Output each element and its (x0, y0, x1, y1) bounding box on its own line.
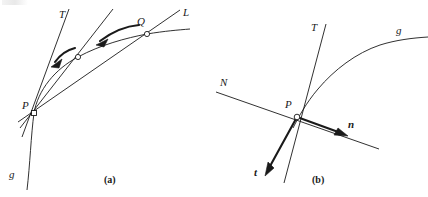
panel-a (18, 9, 190, 190)
vector-n-arrowhead-panel-b (334, 128, 348, 136)
label-L-panel-a: L (183, 7, 189, 18)
label-t-vector-panel-b: t (254, 167, 257, 178)
caption-panel-a: (a) (104, 175, 116, 185)
label-N-panel-b: N (220, 77, 227, 88)
point-P-marker-panel-b (294, 114, 300, 120)
label-P-panel-b: P (285, 99, 292, 110)
curve-g-panel-b (293, 37, 428, 128)
point-M-marker-panel-a (75, 54, 80, 59)
vector-n-shaft-panel-b (297, 117, 341, 133)
arrow-secant-approach-1-panel-a (100, 25, 139, 41)
caption-panel-b: (b) (312, 175, 324, 185)
normal-line-N-panel-b (216, 92, 379, 149)
label-T-panel-b: T (311, 22, 317, 33)
label-g-panel-b: g (396, 25, 402, 36)
label-n-vector-panel-b: n (348, 119, 354, 130)
vector-t-arrowhead-panel-b (265, 162, 274, 176)
vector-t-shaft-panel-b (269, 117, 297, 168)
figure-canvas (0, 0, 428, 197)
label-T-panel-a: T (59, 9, 65, 20)
label-P-panel-a: P (22, 100, 29, 111)
point-Q-marker-panel-a (144, 31, 149, 36)
label-Q-panel-a: Q (137, 16, 145, 27)
curve-g-panel-a (27, 29, 190, 190)
tangent-line-T-panel-a (22, 9, 69, 137)
panel-b (216, 24, 428, 183)
point-P-marker-panel-a (32, 111, 37, 116)
label-g-panel-a: g (9, 169, 15, 180)
